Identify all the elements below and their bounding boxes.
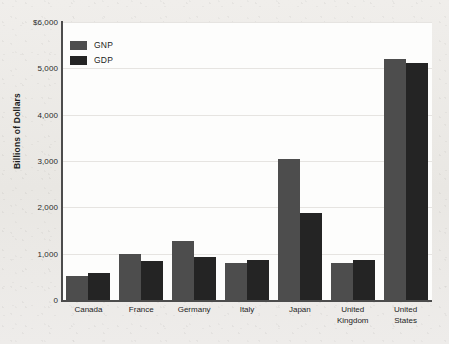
bar-gnp-germany	[172, 241, 194, 300]
bar-gdp-united-kingdom	[353, 260, 375, 300]
x-axis-tick-label: Japan	[289, 304, 311, 315]
y-axis-line	[61, 21, 63, 301]
legend-label: GNP	[94, 40, 113, 50]
bar-gdp-united-states	[406, 63, 428, 300]
x-axis-tick-label: Canada	[74, 304, 102, 315]
bar-gdp-france	[141, 261, 163, 300]
x-axis-tick-label-line: Canada	[74, 304, 102, 315]
y-axis-tick-label: 5,000	[2, 64, 58, 73]
bar-group	[379, 22, 432, 300]
bar-gnp-united-states	[384, 59, 406, 300]
bar-chart-figure: $6,0005,0004,0003,0002,0001,0000 Billion…	[0, 0, 449, 344]
x-axis-tick-label-line: United	[337, 304, 369, 315]
bar-gdp-canada	[88, 273, 110, 300]
legend-item-gdp: GDP	[70, 55, 113, 65]
y-axis-tick-label: 4,000	[2, 110, 58, 119]
plot-area	[62, 22, 432, 300]
bar-gnp-italy	[225, 263, 247, 300]
y-axis-tick-label: 1,000	[2, 249, 58, 258]
legend-label: GDP	[94, 55, 113, 65]
bar-group	[115, 22, 168, 300]
x-axis-line	[61, 300, 432, 302]
bar-gnp-canada	[66, 276, 88, 300]
x-axis-tick-label: UnitedStates	[394, 304, 417, 326]
y-axis-tick-label: 3,000	[2, 157, 58, 166]
chart-legend: GNPGDP	[70, 40, 113, 65]
x-axis-tick-label-line: Japan	[289, 304, 311, 315]
legend-swatch-gdp	[70, 56, 87, 65]
legend-swatch-gnp	[70, 41, 87, 50]
x-axis-tick-label: France	[129, 304, 154, 315]
x-axis-tick-labels: CanadaFranceGermanyItalyJapanUnitedKingd…	[62, 304, 432, 342]
bar-gnp-united-kingdom	[331, 263, 353, 300]
bar-gdp-japan	[300, 213, 322, 300]
y-axis-tick-labels: $6,0005,0004,0003,0002,0001,0000	[0, 0, 58, 344]
x-axis-tick-label-line: Italy	[240, 304, 255, 315]
bar-group	[168, 22, 221, 300]
bar-gdp-italy	[247, 260, 269, 300]
y-axis-title: Billions of Dollars	[12, 76, 22, 186]
legend-item-gnp: GNP	[70, 40, 113, 50]
x-axis-tick-label-line: United	[394, 304, 417, 315]
x-axis-tick-label-line: France	[129, 304, 154, 315]
x-axis-tick-label-line: Kingdom	[337, 315, 369, 326]
x-axis-tick-label: Germany	[178, 304, 211, 315]
bar-gnp-france	[119, 254, 141, 300]
bar-group	[221, 22, 274, 300]
x-axis-tick-label-line: States	[394, 315, 417, 326]
y-axis-tick-label: $6,000	[2, 18, 58, 27]
x-axis-tick-label-line: Germany	[178, 304, 211, 315]
y-axis-tick-label: 2,000	[2, 203, 58, 212]
x-axis-tick-label: Italy	[240, 304, 255, 315]
x-axis-tick-label: UnitedKingdom	[337, 304, 369, 326]
bar-group	[273, 22, 326, 300]
bar-gnp-japan	[278, 159, 300, 300]
bar-group	[326, 22, 379, 300]
bar-gdp-germany	[194, 257, 216, 300]
y-axis-tick-label: 0	[2, 296, 58, 305]
